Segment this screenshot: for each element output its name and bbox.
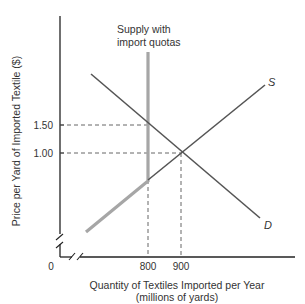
y-tick-label-100: 1.00 — [34, 148, 54, 159]
demand-curve — [91, 74, 260, 218]
supply-label: S — [268, 76, 276, 88]
y-tick-label-150: 1.50 — [34, 120, 54, 131]
x-axis-label-line1: Quantity of Textiles Imported per Year — [90, 279, 265, 291]
y-axis-break-mark — [56, 234, 63, 240]
supply-curve — [148, 85, 265, 180]
x-tick-label-800: 800 — [140, 261, 157, 272]
demand-label: D — [264, 219, 272, 231]
reference-lines — [60, 125, 181, 257]
supply-demand-chart: Supply with import quotas S D 1.50 1.00 … — [0, 0, 305, 304]
x-axis-label-line2: (millions of yards) — [136, 291, 218, 303]
y-axis-label: Price per Yard of Imported Textile ($) — [10, 56, 22, 226]
quota-label-line2: import quotas — [117, 36, 181, 48]
origin-label: 0 — [48, 261, 54, 272]
x-tick-label-900: 900 — [173, 261, 190, 272]
quota-label-line1: Supply with — [117, 23, 171, 35]
quota-supply-curve — [86, 52, 148, 232]
